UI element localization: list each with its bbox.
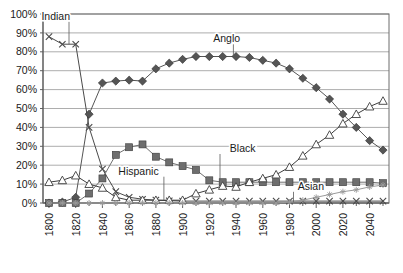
x-axis-label-1880: 1880 — [150, 213, 162, 237]
marker-diamond — [245, 53, 253, 61]
marker-square — [286, 179, 293, 186]
series-indian — [46, 33, 386, 204]
y-axis-label-30: 30% — [16, 140, 37, 152]
marker-diamond — [179, 55, 187, 63]
chart-container: 0%10%20%30%40%50%60%70%80%90%100%1800182… — [0, 0, 403, 273]
y-axis-label-20: 20% — [16, 159, 37, 171]
x-axis-label-1800: 1800 — [43, 213, 55, 237]
x-axis-label-2000: 2000 — [310, 213, 322, 237]
x-axis-label-1820: 1820 — [70, 213, 82, 237]
marker-square — [126, 144, 133, 151]
marker-diamond — [165, 59, 173, 67]
x-axis-label-1940: 1940 — [230, 213, 242, 237]
marker-plus — [273, 200, 279, 206]
annotation-label-asian: Asian — [298, 180, 324, 192]
marker-square — [339, 179, 346, 186]
x-axis-label-1960: 1960 — [257, 213, 269, 237]
marker-plus — [73, 200, 79, 206]
marker-plus — [300, 197, 306, 203]
y-axis-label-100: 100% — [10, 8, 37, 20]
annotation-label-anglo: Anglo — [213, 32, 240, 44]
marker-square — [99, 175, 106, 182]
marker-diamond — [259, 56, 267, 64]
marker-triangle — [339, 119, 347, 127]
annotation-black: BlackBlack — [220, 142, 256, 180]
annotation-label-black: Black — [230, 142, 256, 154]
x-axis-label-2040: 2040 — [364, 213, 376, 237]
marker-triangle — [72, 171, 80, 179]
x-axis-label-1860: 1860 — [123, 213, 135, 237]
marker-square — [86, 190, 93, 197]
marker-triangle — [272, 170, 280, 178]
x-axis-label-2020: 2020 — [337, 213, 349, 237]
y-axis-label-50: 50% — [16, 102, 37, 114]
marker-diamond — [285, 65, 293, 73]
y-axis-label-40: 40% — [16, 121, 37, 133]
marker-plus — [99, 200, 105, 206]
marker-triangle — [58, 176, 66, 184]
marker-x — [99, 166, 105, 172]
marker-diamond — [125, 76, 133, 84]
marker-square — [179, 163, 186, 170]
marker-diamond — [98, 79, 106, 87]
marker-diamond — [112, 77, 120, 85]
marker-square — [206, 177, 213, 184]
marker-square — [139, 141, 146, 148]
marker-triangle — [379, 97, 387, 105]
x-axis-label-1920: 1920 — [204, 213, 216, 237]
marker-plus — [327, 191, 333, 197]
marker-triangle — [312, 140, 320, 148]
marker-plus — [113, 200, 119, 206]
marker-triangle — [365, 102, 373, 110]
marker-triangle — [352, 110, 360, 118]
y-axis-label-10: 10% — [16, 178, 37, 190]
marker-diamond — [299, 74, 307, 82]
annotation-label-indian: Indian — [41, 10, 70, 22]
demographic-composition-line-chart: 0%10%20%30%40%50%60%70%80%90%100%1800182… — [0, 0, 403, 273]
annotation-indian: IndianIndian — [41, 10, 70, 45]
marker-diamond — [272, 59, 280, 67]
x-axis-label-1980: 1980 — [284, 213, 296, 237]
annotation-label-hispanic: Hispanic — [118, 165, 158, 177]
marker-plus — [59, 200, 65, 206]
y-axis-label-90: 90% — [16, 27, 37, 39]
marker-square — [273, 179, 280, 186]
marker-square — [166, 159, 173, 166]
marker-square — [112, 151, 119, 158]
x-axis-label-1900: 1900 — [177, 213, 189, 237]
series-asian — [46, 182, 386, 206]
marker-plus — [86, 200, 92, 206]
marker-square — [192, 166, 199, 173]
x-axis-label-1840: 1840 — [97, 213, 109, 237]
marker-plus — [286, 199, 292, 205]
y-axis-label-0: 0% — [22, 197, 37, 209]
marker-triangle — [85, 180, 93, 188]
marker-x — [46, 33, 52, 39]
marker-diamond — [192, 52, 200, 60]
marker-square — [152, 153, 159, 160]
marker-diamond — [379, 146, 387, 154]
y-axis-label-70: 70% — [16, 64, 37, 76]
marker-plus — [353, 187, 359, 193]
annotation-hispanic: HispanicHispanic — [118, 165, 164, 201]
marker-square — [353, 179, 360, 186]
marker-plus — [340, 189, 346, 195]
marker-diamond — [219, 52, 227, 60]
marker-diamond — [205, 52, 213, 60]
marker-square — [326, 179, 333, 186]
y-axis-label-60: 60% — [16, 83, 37, 95]
y-axis-label-80: 80% — [16, 45, 37, 57]
marker-plus — [46, 200, 52, 206]
